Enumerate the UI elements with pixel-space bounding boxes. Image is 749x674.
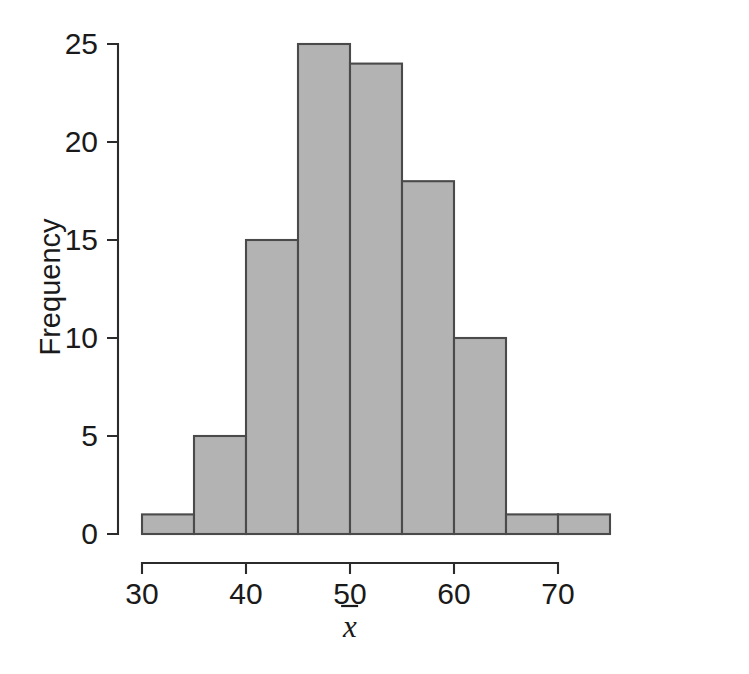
histogram-bar <box>194 436 246 534</box>
x-axis-title-text: x <box>342 609 357 644</box>
histogram-figure: 0510152025 3040506070 Frequency x <box>0 0 749 674</box>
y-axis-tick-label: 25 <box>65 27 98 60</box>
histogram-bar <box>454 338 506 534</box>
histogram-bar <box>246 240 298 534</box>
histogram-bar <box>506 514 558 534</box>
histogram-bar <box>402 181 454 534</box>
histogram-plot: 0510152025 3040506070 Frequency x <box>0 0 749 674</box>
histogram-bar <box>298 44 350 534</box>
y-axis-tick-label: 15 <box>65 223 98 256</box>
histogram-bar <box>350 64 402 534</box>
x-axis-title: x <box>341 606 358 644</box>
y-axis-tick-label: 20 <box>65 125 98 158</box>
histogram-bar <box>558 514 610 534</box>
y-axis-tick-label: 0 <box>81 517 98 550</box>
x-axis-tick-label: 70 <box>541 577 574 610</box>
y-axis-tick-label: 5 <box>81 419 98 452</box>
y-axis-tick-label: 10 <box>65 321 98 354</box>
x-axis-tick-label: 30 <box>125 577 158 610</box>
x-axis-tick-label: 60 <box>437 577 470 610</box>
y-axis-title: Frequency <box>34 218 66 356</box>
x-axis-tick-label: 40 <box>229 577 262 610</box>
histogram-bar <box>142 514 194 534</box>
